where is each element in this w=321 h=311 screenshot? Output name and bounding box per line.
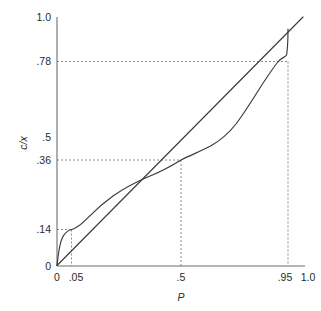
y-tick-label-0-14: .14 bbox=[36, 223, 51, 235]
x-tick-label-1-0: 1.0 bbox=[301, 271, 316, 283]
chart-figure: 1.0 .78 .5 .36 .14 0 0 .05 .5 .95 1.0 P … bbox=[0, 0, 321, 311]
y-tick-label-0-36: .36 bbox=[36, 154, 51, 166]
x-axis-title: P bbox=[177, 291, 184, 303]
y-axis-title: c/x bbox=[17, 136, 29, 150]
y-tick-label-0: 0 bbox=[45, 260, 51, 272]
y-tick-label-1-0: 1.0 bbox=[36, 11, 51, 23]
chart-svg: 1.0 .78 .5 .36 .14 0 0 .05 .5 .95 1.0 P … bbox=[0, 0, 321, 311]
x-tick-label-0-05: .05 bbox=[69, 271, 84, 283]
x-tick-label-0-95: .95 bbox=[278, 271, 293, 283]
y-tick-label-0-78: .78 bbox=[36, 55, 51, 67]
x-tick-label-0-5: .5 bbox=[177, 271, 186, 283]
y-tick-label-0-5: .5 bbox=[42, 131, 51, 143]
x-tick-label-0: 0 bbox=[54, 271, 60, 283]
